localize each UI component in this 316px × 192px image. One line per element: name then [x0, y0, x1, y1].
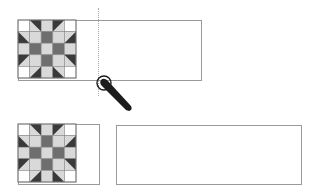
stylus-pointer-icon[interactable] [0, 0, 316, 192]
diagram-stage [0, 0, 316, 192]
